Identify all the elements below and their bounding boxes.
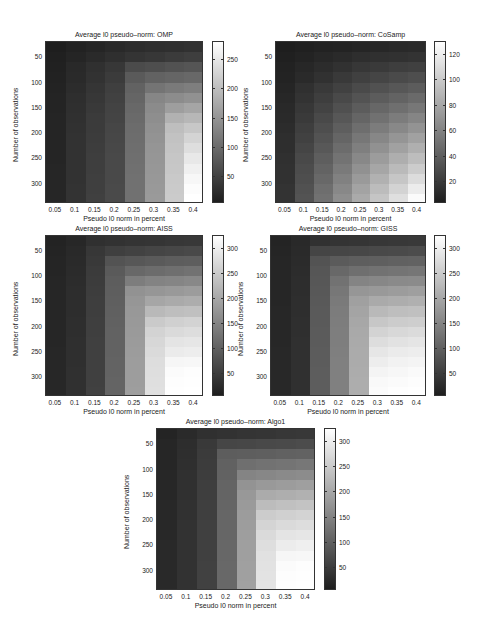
heatmap-cell	[388, 337, 408, 348]
heatmap-cell	[66, 123, 86, 134]
chart-title: Average l0 pseudo–norm: GISS	[299, 225, 398, 232]
heatmap-cell	[296, 480, 315, 491]
heatmap-cell	[314, 133, 333, 144]
heatmap-cell	[184, 327, 203, 338]
heatmap-cell	[314, 184, 333, 195]
heatmap-cell	[296, 500, 315, 511]
heatmap-cell	[46, 133, 66, 144]
colorbar-tick-mark	[325, 517, 327, 518]
heatmap-cell	[46, 357, 66, 368]
y-tick-label: 150	[250, 103, 272, 110]
heatmap-cell	[145, 62, 165, 73]
x-tick-label: 0.3	[149, 399, 158, 406]
heatmap-cell	[157, 490, 177, 501]
colorbar-tick-label: 300	[449, 244, 460, 251]
heatmap-cell	[165, 367, 185, 378]
heatmap-cell	[310, 266, 330, 277]
heatmap-cell	[197, 530, 217, 541]
heatmap-cell	[330, 337, 350, 348]
heatmap-cell	[125, 347, 145, 358]
heatmap-plot-area	[275, 41, 426, 203]
x-tick-label: 0.35	[391, 206, 404, 213]
heatmap-cell	[66, 164, 86, 175]
y-tick-label: 150	[245, 297, 267, 304]
heatmap-cell	[271, 266, 291, 277]
y-tick-label: 150	[20, 297, 42, 304]
heatmap-cell	[105, 357, 125, 368]
heatmap-cell	[46, 143, 66, 154]
heatmap-cell	[296, 510, 315, 521]
heatmap-cell	[352, 103, 371, 114]
heatmap-cell	[86, 387, 106, 396]
heatmap-cell	[105, 327, 125, 338]
heatmap-cell	[295, 153, 314, 164]
heatmap-cell	[256, 439, 276, 450]
heatmap-cell	[333, 123, 352, 134]
heatmap-cell	[330, 236, 350, 247]
heatmap-cell	[388, 296, 408, 307]
x-tick-label: 0.15	[199, 593, 212, 600]
heatmap-cell	[369, 327, 389, 338]
heatmap-cell	[197, 561, 217, 572]
heatmap-cell	[370, 174, 389, 185]
heatmap-cell	[145, 236, 165, 247]
heatmap-cell	[145, 174, 165, 185]
heatmap-cell	[217, 571, 237, 582]
colorbar-tick-mark	[221, 298, 223, 299]
heatmap-cell	[184, 42, 203, 53]
heatmap-cell	[125, 123, 145, 134]
heatmap-cell	[291, 246, 311, 257]
heatmap-cell	[349, 347, 369, 358]
heatmap-cell	[349, 357, 369, 368]
heatmap-cell	[86, 357, 106, 368]
x-axis-label: Pseudo l0 norm in percent	[83, 215, 165, 222]
heatmap-cell	[349, 256, 369, 267]
heatmap-cell	[184, 103, 203, 114]
heatmap-cell	[177, 520, 197, 531]
heatmap-cell	[46, 367, 66, 378]
heatmap-cell	[217, 581, 237, 590]
heatmap-cell	[197, 520, 217, 531]
heatmap-cell	[66, 317, 86, 328]
heatmap-cell	[177, 439, 197, 450]
colorbar-tick-mark	[213, 298, 215, 299]
heatmap-cell	[314, 93, 333, 104]
heatmap-cell	[369, 347, 389, 358]
heatmap-cell	[314, 72, 333, 83]
heatmap-cell	[408, 103, 426, 114]
heatmap-cell	[217, 439, 237, 450]
heatmap-cell	[145, 123, 165, 134]
heatmap-cell	[408, 377, 427, 388]
heatmap-plot-area	[270, 235, 426, 396]
heatmap-cell	[408, 194, 426, 203]
heatmap-cell	[66, 83, 86, 94]
heatmap-cell	[184, 113, 203, 124]
heatmap-cell	[86, 306, 106, 317]
heatmap-cell	[157, 470, 177, 481]
colorbar-tick-mark	[443, 130, 445, 131]
x-tick-label: 0.05	[278, 206, 291, 213]
heatmap-cell	[276, 520, 296, 531]
x-tick-label: 0.15	[312, 399, 325, 406]
heatmap-cell	[105, 387, 125, 396]
colorbar-tick-label: 60	[449, 127, 456, 134]
heatmap-cell	[408, 246, 427, 257]
heatmap-cell	[145, 83, 165, 94]
x-tick-label: 0.3	[149, 206, 158, 213]
heatmap-cell	[310, 347, 330, 358]
x-tick-label: 0.05	[273, 399, 286, 406]
y-tick-label: 50	[20, 247, 42, 254]
heatmap-cell	[237, 429, 257, 440]
heatmap-cell	[46, 164, 66, 175]
heatmap-cell	[217, 540, 237, 551]
heatmap-cell	[177, 490, 197, 501]
heatmap-cell	[352, 153, 371, 164]
heatmap-cell	[408, 317, 427, 328]
heatmap-cell	[271, 357, 291, 368]
heatmap-cell	[46, 327, 66, 338]
heatmap-cell	[184, 123, 203, 134]
y-tick-label: 250	[250, 154, 272, 161]
heatmap-cell	[145, 52, 165, 63]
heatmap-cell	[369, 387, 389, 396]
x-tick-label: 0.4	[301, 593, 310, 600]
